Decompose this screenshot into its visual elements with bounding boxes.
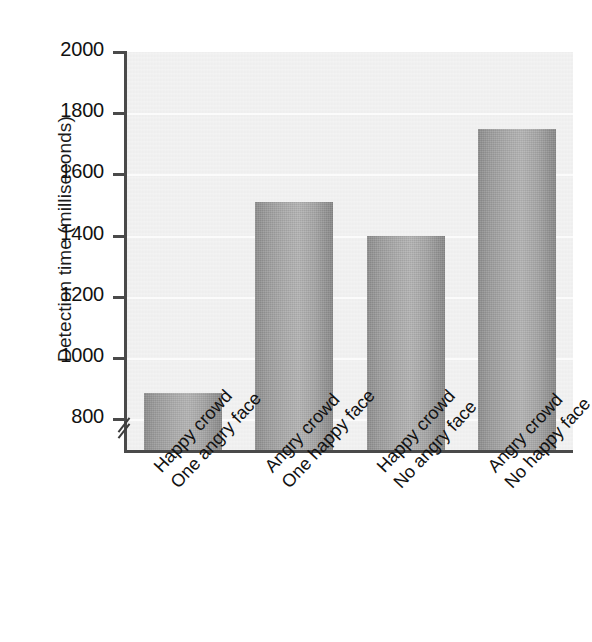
- y-axis-tick: [113, 112, 127, 115]
- y-axis-tick: [113, 51, 127, 54]
- y-axis-tick-label: 1400: [42, 222, 104, 245]
- gridline: [127, 113, 573, 115]
- y-axis-tick-label: 2000: [42, 38, 104, 61]
- y-axis-tick-label: 1000: [42, 344, 104, 367]
- y-axis-tick-label: 1800: [42, 99, 104, 122]
- y-axis-tick: [113, 173, 127, 176]
- bar-chart-figure: Detection time (milliseconds) 8001000120…: [0, 0, 592, 642]
- y-axis-tick-label: 1600: [42, 160, 104, 183]
- y-axis-tick: [113, 296, 127, 299]
- y-axis-tick: [113, 357, 127, 360]
- y-axis-tick-label: 1200: [42, 283, 104, 306]
- y-axis-tick: [113, 235, 127, 238]
- y-axis-tick-label: 800: [42, 405, 104, 428]
- axis-break-icon: [114, 416, 136, 438]
